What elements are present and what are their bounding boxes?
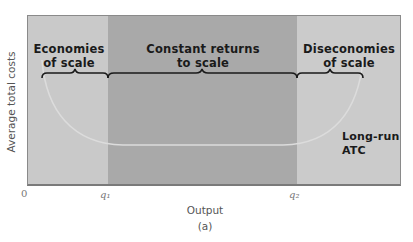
y-axis-label: Average total costs xyxy=(5,47,17,157)
origin-label: 0 xyxy=(21,188,27,199)
tick-q2: q₂ xyxy=(289,189,299,200)
brace-constant xyxy=(108,69,297,78)
label-long-run-atc: Long-runATC xyxy=(342,130,400,158)
plot-area: Economiesof scale Constant returnsto sca… xyxy=(27,15,401,186)
label-economies-of-scale: Economiesof scale xyxy=(30,42,108,70)
brace-diseconomies xyxy=(297,69,363,78)
tick-q1: q₁ xyxy=(100,189,110,200)
label-diseconomies-of-scale: Diseconomiesof scale xyxy=(296,42,401,70)
brace-economies xyxy=(42,69,108,78)
figure-caption: (a) xyxy=(180,220,230,232)
x-axis-label: Output xyxy=(180,204,230,216)
label-constant-returns: Constant returnsto scale xyxy=(123,42,283,70)
